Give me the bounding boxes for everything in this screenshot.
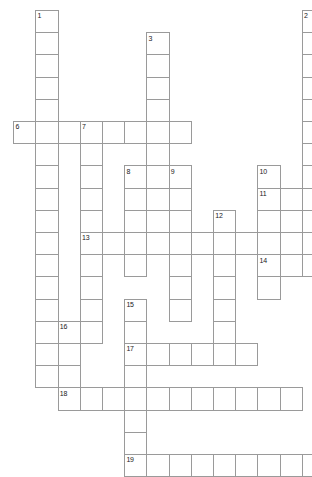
crossword-cell[interactable] bbox=[169, 165, 192, 188]
crossword-cell[interactable] bbox=[213, 276, 236, 299]
crossword-cell[interactable] bbox=[35, 321, 58, 344]
crossword-cell[interactable] bbox=[80, 321, 103, 344]
crossword-cell[interactable] bbox=[146, 32, 169, 55]
crossword-cell[interactable] bbox=[169, 121, 192, 144]
crossword-cell[interactable] bbox=[80, 299, 103, 322]
crossword-cell[interactable] bbox=[58, 321, 81, 344]
crossword-cell[interactable] bbox=[302, 32, 312, 55]
crossword-cell[interactable] bbox=[146, 343, 169, 366]
crossword-cell[interactable] bbox=[235, 387, 258, 410]
crossword-cell[interactable] bbox=[35, 77, 58, 100]
crossword-cell[interactable] bbox=[191, 387, 214, 410]
crossword-cell[interactable] bbox=[280, 454, 303, 477]
crossword-cell[interactable] bbox=[191, 232, 214, 255]
crossword-cell[interactable] bbox=[302, 54, 312, 77]
crossword-cell[interactable] bbox=[257, 454, 280, 477]
crossword-cell[interactable] bbox=[124, 210, 147, 233]
crossword-cell[interactable] bbox=[146, 454, 169, 477]
crossword-cell[interactable] bbox=[302, 454, 312, 477]
crossword-cell[interactable] bbox=[80, 210, 103, 233]
crossword-cell[interactable] bbox=[169, 276, 192, 299]
crossword-cell[interactable] bbox=[35, 365, 58, 388]
crossword-cell[interactable] bbox=[213, 232, 236, 255]
crossword-cell[interactable] bbox=[213, 299, 236, 322]
crossword-cell[interactable] bbox=[169, 343, 192, 366]
crossword-cell[interactable] bbox=[213, 343, 236, 366]
crossword-cell[interactable] bbox=[80, 121, 103, 144]
crossword-cell[interactable] bbox=[169, 232, 192, 255]
crossword-cell[interactable] bbox=[169, 188, 192, 211]
crossword-cell[interactable] bbox=[35, 254, 58, 277]
crossword-cell[interactable] bbox=[302, 143, 312, 166]
crossword-cell[interactable] bbox=[35, 32, 58, 55]
crossword-cell[interactable] bbox=[124, 254, 147, 277]
crossword-cell[interactable] bbox=[124, 387, 147, 410]
crossword-cell[interactable] bbox=[146, 188, 169, 211]
crossword-cell[interactable] bbox=[257, 210, 280, 233]
crossword-cell[interactable] bbox=[302, 99, 312, 122]
crossword-cell[interactable] bbox=[213, 321, 236, 344]
crossword-cell[interactable] bbox=[235, 454, 258, 477]
crossword-cell[interactable] bbox=[35, 210, 58, 233]
crossword-cell[interactable] bbox=[169, 299, 192, 322]
crossword-cell[interactable] bbox=[302, 254, 312, 277]
crossword-cell[interactable] bbox=[58, 121, 81, 144]
crossword-cell[interactable] bbox=[146, 99, 169, 122]
crossword-cell[interactable] bbox=[35, 99, 58, 122]
crossword-cell[interactable] bbox=[146, 143, 169, 166]
crossword-cell[interactable] bbox=[35, 121, 58, 144]
crossword-cell[interactable] bbox=[302, 77, 312, 100]
crossword-cell[interactable] bbox=[302, 10, 312, 33]
crossword-cell[interactable] bbox=[302, 188, 312, 211]
crossword-cell[interactable] bbox=[58, 387, 81, 410]
crossword-cell[interactable] bbox=[146, 165, 169, 188]
crossword-cell[interactable] bbox=[80, 232, 103, 255]
crossword-cell[interactable] bbox=[80, 188, 103, 211]
crossword-cell[interactable] bbox=[124, 299, 147, 322]
crossword-cell[interactable] bbox=[213, 254, 236, 277]
crossword-cell[interactable] bbox=[302, 210, 312, 233]
crossword-cell[interactable] bbox=[235, 343, 258, 366]
crossword-cell[interactable] bbox=[169, 210, 192, 233]
crossword-cell[interactable] bbox=[280, 387, 303, 410]
crossword-cell[interactable] bbox=[80, 387, 103, 410]
crossword-cell[interactable] bbox=[302, 121, 312, 144]
crossword-cell[interactable] bbox=[35, 276, 58, 299]
crossword-cell[interactable] bbox=[35, 143, 58, 166]
crossword-cell[interactable] bbox=[58, 343, 81, 366]
crossword-cell[interactable] bbox=[280, 188, 303, 211]
crossword-cell[interactable] bbox=[13, 121, 36, 144]
crossword-cell[interactable] bbox=[35, 188, 58, 211]
crossword-cell[interactable] bbox=[124, 343, 147, 366]
crossword-cell[interactable] bbox=[124, 365, 147, 388]
crossword-cell[interactable] bbox=[169, 387, 192, 410]
crossword-cell[interactable] bbox=[102, 387, 125, 410]
crossword-cell[interactable] bbox=[146, 77, 169, 100]
crossword-cell[interactable] bbox=[257, 188, 280, 211]
crossword-cell[interactable] bbox=[35, 54, 58, 77]
crossword-cell[interactable] bbox=[257, 276, 280, 299]
crossword-cell[interactable] bbox=[146, 232, 169, 255]
crossword-cell[interactable] bbox=[302, 165, 312, 188]
crossword-cell[interactable] bbox=[280, 232, 303, 255]
crossword-cell[interactable] bbox=[191, 454, 214, 477]
crossword-cell[interactable] bbox=[124, 121, 147, 144]
crossword-cell[interactable] bbox=[35, 232, 58, 255]
crossword-cell[interactable] bbox=[169, 454, 192, 477]
crossword-cell[interactable] bbox=[146, 387, 169, 410]
crossword-cell[interactable] bbox=[146, 54, 169, 77]
crossword-cell[interactable] bbox=[35, 165, 58, 188]
crossword-cell[interactable] bbox=[169, 254, 192, 277]
crossword-cell[interactable] bbox=[124, 165, 147, 188]
crossword-cell[interactable] bbox=[124, 188, 147, 211]
crossword-cell[interactable] bbox=[257, 232, 280, 255]
crossword-cell[interactable] bbox=[80, 276, 103, 299]
crossword-cell[interactable] bbox=[124, 454, 147, 477]
crossword-cell[interactable] bbox=[58, 365, 81, 388]
crossword-cell[interactable] bbox=[35, 299, 58, 322]
crossword-cell[interactable] bbox=[80, 165, 103, 188]
crossword-cell[interactable] bbox=[302, 232, 312, 255]
crossword-cell[interactable] bbox=[213, 387, 236, 410]
crossword-cell[interactable] bbox=[124, 410, 147, 433]
crossword-cell[interactable] bbox=[235, 232, 258, 255]
